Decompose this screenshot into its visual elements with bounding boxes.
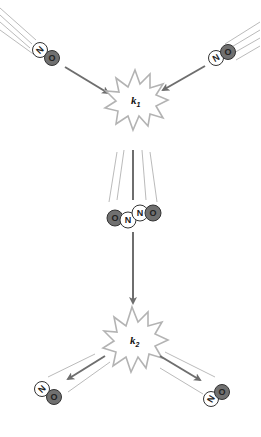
arrow-k2-to-left (68, 356, 105, 379)
atom-label-o: O (149, 208, 156, 218)
reactant-no-right: N O (209, 22, 261, 66)
intermediate-onno: O N N O (107, 205, 161, 228)
reactant-no-left: N O (0, 8, 60, 66)
collision-burst-k2: k2 (103, 307, 168, 372)
atom-label-o: O (50, 392, 57, 402)
product-no-bottom-left: N O (35, 354, 111, 405)
atom-label-n: N (125, 215, 132, 225)
atom-label-o: O (224, 47, 231, 57)
atom-label-n: N (137, 208, 144, 218)
collision-burst-k1: k1 (105, 70, 168, 130)
atom-label-o: O (218, 387, 225, 397)
atom-label-o: O (48, 53, 55, 63)
burst-icon (103, 307, 168, 372)
atom-label-o: O (111, 213, 118, 223)
arrow-right-to-k1 (163, 66, 205, 90)
motion-lines (0, 8, 36, 56)
arrow-left-to-k1 (65, 67, 108, 93)
product-no-bottom-right: N O (160, 352, 230, 407)
burst-icon (105, 70, 168, 130)
reaction-diagram: N O N O k1 O N N O (0, 0, 260, 437)
